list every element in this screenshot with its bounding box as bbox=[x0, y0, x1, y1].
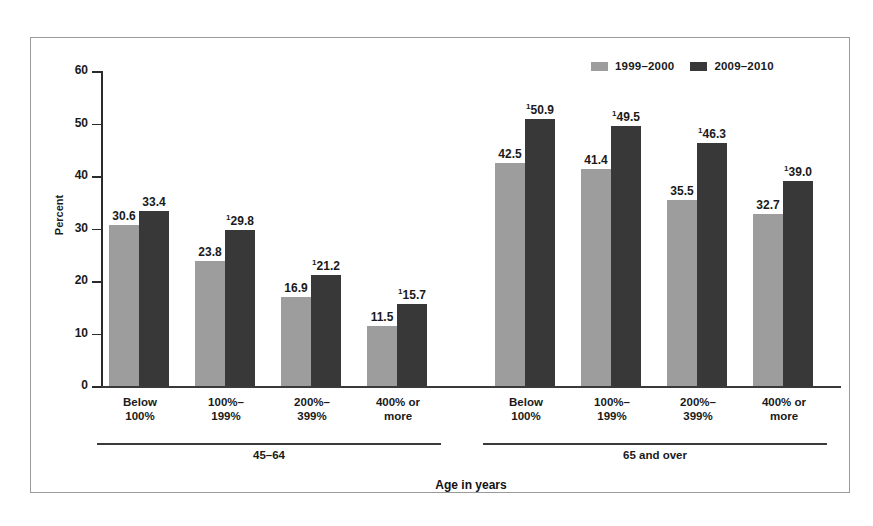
bar-value-label: 32.7 bbox=[756, 198, 779, 212]
x-category-label: 400% ormore bbox=[741, 395, 827, 423]
x-category-label-line2: more bbox=[741, 409, 827, 423]
legend-swatch-dark bbox=[690, 62, 707, 71]
y-tick-label-20: 20 bbox=[58, 273, 88, 287]
x-category-label: 100%–199% bbox=[183, 395, 269, 423]
bar-value-label: 11.5 bbox=[371, 310, 394, 324]
bar-value-label: 16.9 bbox=[284, 281, 307, 295]
bar: 115.7 bbox=[397, 304, 427, 386]
bar-cluster: 16.9121.2 bbox=[281, 71, 343, 386]
y-tick-label-30: 30 bbox=[58, 221, 88, 235]
bar-value-label: 146.3 bbox=[698, 127, 726, 141]
y-tick-label-40: 40 bbox=[58, 168, 88, 182]
y-tick-label-0: 0 bbox=[58, 378, 88, 392]
y-tick-label-60: 60 bbox=[58, 63, 88, 77]
bar-value-label: 129.8 bbox=[226, 214, 254, 228]
bar: 139.0 bbox=[783, 181, 813, 386]
bar-value-label: 121.2 bbox=[312, 259, 340, 273]
chart-frame: 1999–2000 2009–2010 Percent 60 50 40 30 bbox=[30, 37, 850, 493]
group-label-45-64: 45–64 bbox=[97, 449, 441, 461]
bar-value-label: 35.5 bbox=[670, 184, 693, 198]
bar-cluster: 42.5150.9 bbox=[495, 71, 557, 386]
x-category-label-line2: 399% bbox=[269, 409, 355, 423]
bar-cluster: 30.633.4 bbox=[109, 71, 171, 386]
x-category-label: 200%–399% bbox=[269, 395, 355, 423]
x-category-label: 100%–199% bbox=[569, 395, 655, 423]
x-category-label: Below100% bbox=[483, 395, 569, 423]
bar-value-label: 41.4 bbox=[584, 153, 607, 167]
bar-cluster: 23.8129.8 bbox=[195, 71, 257, 386]
plot-area: Percent 60 50 40 30 20 10 0 bbox=[101, 71, 841, 386]
y-tick-label-10: 10 bbox=[58, 326, 88, 340]
bar: 16.9 bbox=[281, 297, 311, 386]
bar: 42.5 bbox=[495, 163, 525, 386]
x-category-label-line2: 199% bbox=[183, 409, 269, 423]
y-tick-label-50: 50 bbox=[58, 116, 88, 130]
x-category-label-line1: 400% or bbox=[741, 395, 827, 409]
bar-value-label: 150.9 bbox=[526, 103, 554, 117]
bar: 35.5 bbox=[667, 200, 697, 386]
x-category-label-line1: 100%– bbox=[183, 395, 269, 409]
bar: 32.7 bbox=[753, 214, 783, 386]
bar: 146.3 bbox=[697, 143, 727, 386]
group-rule-45-64 bbox=[97, 443, 441, 445]
bar: 149.5 bbox=[611, 126, 641, 386]
group-rule-65-and-over bbox=[483, 443, 827, 445]
legend-swatch-light bbox=[591, 62, 608, 71]
bar-cluster: 35.5146.3 bbox=[667, 71, 729, 386]
bar-value-label: 30.6 bbox=[112, 209, 135, 223]
x-category-label: 200%–399% bbox=[655, 395, 741, 423]
x-category-label-line2: 100% bbox=[483, 409, 569, 423]
x-category-label-line2: more bbox=[355, 409, 441, 423]
x-category-label-line1: 200%– bbox=[269, 395, 355, 409]
bar-value-label: 23.8 bbox=[198, 245, 221, 259]
y-axis-line bbox=[101, 71, 103, 386]
group-label-65-and-over: 65 and over bbox=[483, 449, 827, 461]
x-category-label-line1: 400% or bbox=[355, 395, 441, 409]
x-category-label-line1: 200%– bbox=[655, 395, 741, 409]
x-category-label-line1: Below bbox=[97, 395, 183, 409]
bar-cluster: 11.5115.7 bbox=[367, 71, 429, 386]
bar: 41.4 bbox=[581, 169, 611, 386]
x-category-label-line2: 399% bbox=[655, 409, 741, 423]
bar: 33.4 bbox=[139, 211, 169, 386]
bar-cluster: 41.4149.5 bbox=[581, 71, 643, 386]
bar: 23.8 bbox=[195, 261, 225, 386]
bar: 150.9 bbox=[525, 119, 555, 386]
x-category-label-line2: 100% bbox=[97, 409, 183, 423]
bar: 30.6 bbox=[109, 225, 139, 386]
bar-value-label: 33.4 bbox=[142, 195, 165, 209]
bar-value-label: 149.5 bbox=[612, 110, 640, 124]
x-category-label-line2: 199% bbox=[569, 409, 655, 423]
bar: 11.5 bbox=[367, 326, 397, 386]
bar-value-label: 139.0 bbox=[784, 165, 812, 179]
bar-value-label: 115.7 bbox=[398, 288, 426, 302]
x-category-label: Below100% bbox=[97, 395, 183, 423]
bar-value-label: 42.5 bbox=[498, 147, 521, 161]
x-category-label: 400% ormore bbox=[355, 395, 441, 423]
bar: 121.2 bbox=[311, 275, 341, 386]
x-axis-baseline bbox=[101, 386, 841, 388]
bar: 129.8 bbox=[225, 230, 255, 386]
x-axis-title: Age in years bbox=[101, 478, 841, 492]
bar-cluster: 32.7139.0 bbox=[753, 71, 815, 386]
x-category-label-line1: Below bbox=[483, 395, 569, 409]
x-category-label-line1: 100%– bbox=[569, 395, 655, 409]
